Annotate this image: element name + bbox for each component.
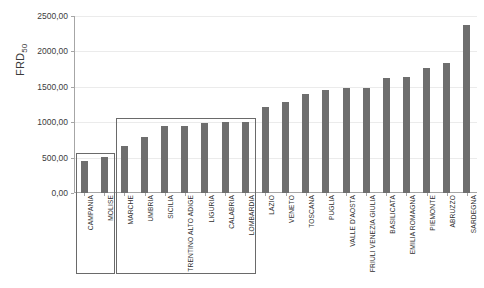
- x-axis-tick-label: TOSCANA: [308, 195, 315, 228]
- x-axis-tick-mark: [386, 193, 387, 196]
- bar: [242, 122, 249, 194]
- bar: [121, 146, 128, 193]
- bar: [343, 88, 350, 193]
- x-axis-tick-label: FRIULI VENEZIA GIULIA: [369, 195, 376, 272]
- x-axis-tick-mark: [165, 193, 166, 196]
- bar: [383, 78, 390, 193]
- x-axis-tick-mark: [467, 193, 468, 196]
- y-axis-tick-label: 0,00: [6, 188, 68, 198]
- bar: [161, 126, 168, 193]
- x-axis-tick-mark: [245, 193, 246, 196]
- bars-container: [74, 16, 477, 193]
- x-axis-tick-label: CAMPANIA: [87, 195, 94, 230]
- x-axis-tick-label: SARDEGNA: [470, 195, 477, 233]
- bar: [81, 161, 88, 193]
- bar: [262, 107, 269, 193]
- x-axis-tick-label: PIEMONTE: [429, 195, 436, 231]
- bar: [322, 90, 329, 193]
- x-axis-tick-label: LIGURIA: [208, 195, 215, 222]
- x-axis-tick-mark: [406, 193, 407, 196]
- x-axis-tick-label: BASILICATA: [389, 195, 396, 234]
- bar: [141, 137, 148, 193]
- x-axis-tick-label: LOMBARDIA: [248, 195, 255, 235]
- x-axis-tick-mark: [326, 193, 327, 196]
- x-axis-tick-label: VALLE D'AOSTA: [349, 195, 356, 247]
- x-axis-tick-mark: [104, 193, 105, 196]
- x-axis-tick-label: MOLISE: [107, 195, 114, 221]
- bar: [463, 25, 470, 194]
- bar: [181, 126, 188, 193]
- x-axis-tick-mark: [185, 193, 186, 196]
- x-axis-tick-label: SICILIA: [167, 195, 174, 219]
- x-axis-tick-labels: CAMPANIAMOLISEMARCHEUMBRIASICILIATRENTIN…: [74, 193, 477, 288]
- x-axis-tick-label: ABRUZZO: [449, 195, 456, 228]
- y-axis-tick-label: 500,00: [6, 153, 68, 163]
- x-axis-tick-mark: [286, 193, 287, 196]
- bar: [443, 63, 450, 193]
- bar: [101, 157, 108, 193]
- x-axis-tick-mark: [427, 193, 428, 196]
- x-axis-tick-mark: [225, 193, 226, 196]
- bar: [363, 88, 370, 193]
- bar: [201, 123, 208, 193]
- x-axis-tick-mark: [447, 193, 448, 196]
- y-axis-tick-label: 1000,00: [6, 117, 68, 127]
- x-axis-tick-label: MARCHE: [127, 195, 134, 224]
- bar: [222, 122, 229, 193]
- x-axis-tick-mark: [84, 193, 85, 196]
- x-axis-tick-label: EMILIA ROMAGNA: [409, 195, 416, 254]
- x-axis-tick-mark: [306, 193, 307, 196]
- bar-chart: FRD50 0,00500,001000,001500,002000,00250…: [0, 0, 484, 288]
- x-axis-tick-mark: [346, 193, 347, 196]
- x-axis-tick-mark: [265, 193, 266, 196]
- bar: [282, 102, 289, 193]
- x-axis-tick-label: PUGLIA: [328, 195, 335, 220]
- x-axis-tick-label: LAZIO: [268, 195, 275, 215]
- x-axis-tick-label: CALABRIA: [228, 195, 235, 229]
- bar: [302, 94, 309, 193]
- y-axis-tick-label: 1500,00: [6, 82, 68, 92]
- x-axis-tick-mark: [205, 193, 206, 196]
- y-axis-tick-label: 2500,00: [6, 11, 68, 21]
- x-axis-tick-label: UMBRIA: [147, 195, 154, 222]
- x-axis-tick-mark: [145, 193, 146, 196]
- x-axis-tick-label: VENETO: [288, 195, 295, 223]
- x-axis-tick-mark: [124, 193, 125, 196]
- bar: [423, 68, 430, 193]
- bar: [403, 77, 410, 193]
- x-axis-tick-mark: [366, 193, 367, 196]
- x-axis-tick-label: TRENTINO ALTO ADIGE: [187, 195, 194, 272]
- y-axis-tick-label: 2000,00: [6, 46, 68, 56]
